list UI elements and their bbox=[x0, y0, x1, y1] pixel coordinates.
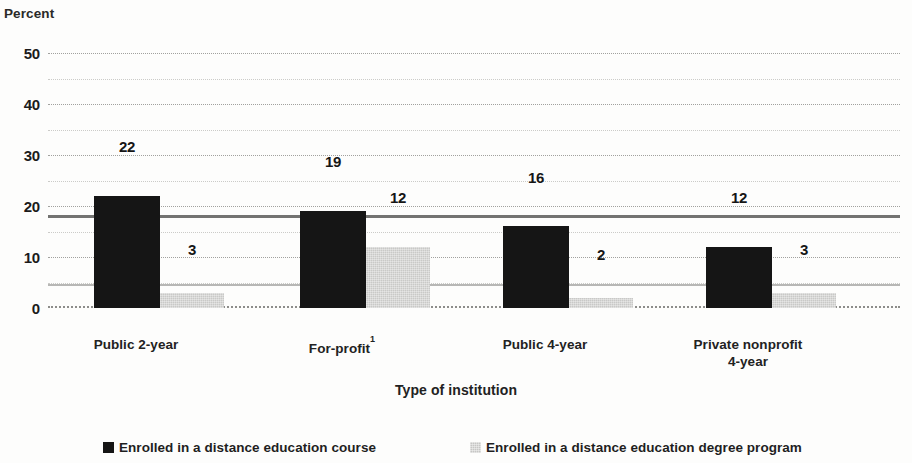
scan-fold-line-secondary bbox=[48, 284, 900, 286]
bar-label-for-profit-degree: 12 bbox=[366, 189, 430, 206]
y-tick-0: 0 bbox=[0, 300, 40, 317]
bar-public-2year-degree bbox=[160, 293, 224, 308]
category-label-for-profit: For-profit1 bbox=[254, 336, 430, 357]
legend-item-course: Enrolled in a distance education course bbox=[103, 440, 376, 455]
chart-legend: Enrolled in a distance education course … bbox=[0, 438, 912, 460]
y-tick-20: 20 bbox=[0, 198, 40, 215]
bar-label-for-profit-course: 19 bbox=[300, 153, 366, 170]
y-tick-50: 50 bbox=[0, 45, 40, 62]
category-label-text: For-profit bbox=[309, 341, 370, 356]
category-label-public-4year: Public 4-year bbox=[457, 336, 633, 353]
category-label-text-line2: 4-year bbox=[728, 354, 768, 369]
bar-label-private-nonprofit-4year-course: 12 bbox=[706, 189, 772, 206]
gridline-25 bbox=[48, 181, 900, 182]
bar-private-nonprofit-4year-course bbox=[706, 247, 772, 308]
bar-label-public-4year-degree: 2 bbox=[569, 246, 633, 263]
legend-label-degree: Enrolled in a distance education degree … bbox=[486, 440, 802, 455]
bar-public-4year-degree bbox=[569, 298, 633, 308]
legend-swatch-light-icon bbox=[470, 442, 481, 453]
x-axis-title: Type of institution bbox=[0, 382, 912, 398]
gridline-15 bbox=[48, 232, 900, 233]
plot-area: 22 3 19 12 16 2 12 3 bbox=[48, 53, 900, 308]
category-label-private-nonprofit-4year: Private nonprofit 4-year bbox=[660, 336, 836, 370]
bar-public-2year-course bbox=[94, 196, 160, 308]
bar-label-public-4year-course: 16 bbox=[503, 169, 569, 186]
scan-fold-line bbox=[48, 215, 900, 218]
category-label-text: Private nonprofit bbox=[694, 337, 803, 352]
bar-label-private-nonprofit-4year-degree: 3 bbox=[772, 241, 836, 258]
y-tick-30: 30 bbox=[0, 147, 40, 164]
category-label-text: Public 2-year bbox=[94, 337, 179, 352]
category-label-text: Public 4-year bbox=[503, 337, 588, 352]
gridline-30 bbox=[48, 155, 900, 156]
legend-label-course: Enrolled in a distance education course bbox=[119, 440, 376, 455]
gridline-40 bbox=[48, 104, 900, 105]
bar-for-profit-course bbox=[300, 211, 366, 308]
y-tick-10: 10 bbox=[0, 249, 40, 266]
footnote-marker: 1 bbox=[370, 334, 375, 344]
gridline-35 bbox=[48, 130, 900, 131]
legend-swatch-dark-icon bbox=[103, 442, 114, 453]
bar-private-nonprofit-4year-degree bbox=[772, 293, 836, 308]
gridline-50 bbox=[48, 53, 900, 54]
gridline-20 bbox=[48, 206, 900, 207]
bar-label-public-2year-course: 22 bbox=[94, 138, 160, 155]
bar-for-profit-degree bbox=[366, 247, 430, 308]
bar-chart: Percent 50 40 30 20 10 0 22 3 19 12 bbox=[0, 0, 912, 463]
y-axis-title: Percent bbox=[4, 6, 54, 21]
y-tick-40: 40 bbox=[0, 96, 40, 113]
bar-public-4year-course bbox=[503, 226, 569, 308]
gridline-45 bbox=[48, 79, 900, 80]
legend-item-degree: Enrolled in a distance education degree … bbox=[470, 440, 802, 455]
bar-label-public-2year-degree: 3 bbox=[160, 241, 224, 258]
category-label-public-2year: Public 2-year bbox=[48, 336, 224, 353]
